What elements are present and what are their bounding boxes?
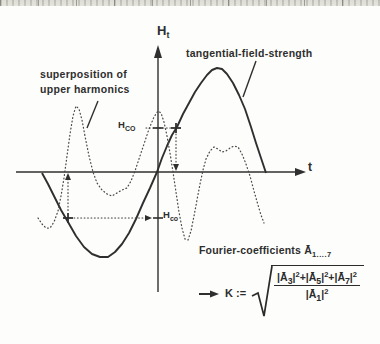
fraction: |Ā3|2+|Ā5|2+|Ā7|2 |Ā1|2 bbox=[274, 270, 360, 300]
coefficient-term-a1: |Ā1|2 bbox=[306, 288, 329, 300]
k-formula: K := |Ā3|2+|Ā5|2+|Ā7|2 |Ā1|2 bbox=[199, 263, 364, 319]
tangential-pointer-line bbox=[243, 61, 256, 97]
fourier-coefficients-label: Fourier-coefficients Ā1....7 bbox=[199, 244, 332, 256]
hco-lower-label-sub: co bbox=[170, 215, 178, 222]
fourier-symbol: Ā bbox=[304, 244, 312, 256]
dotted-curve bbox=[38, 106, 264, 240]
square-root: |Ā3|2+|Ā5|2+|Ā7|2 |Ā1|2 bbox=[251, 263, 364, 319]
coefficient-term-a5: |Ā5|2 bbox=[306, 271, 329, 283]
t-axis-arrowhead-icon bbox=[295, 168, 306, 176]
fraction-numerator: |Ā3|2+|Ā5|2+|Ā7|2 bbox=[274, 270, 360, 286]
y-axis-label-sub: t bbox=[166, 30, 169, 40]
hco-lower-guide-arrowhead-icon bbox=[65, 173, 71, 180]
h-axis-arrowhead-icon bbox=[154, 45, 162, 58]
dotted-curve-label-line1: superposition of bbox=[40, 68, 127, 80]
radicand: |Ā3|2+|Ā5|2+|Ā7|2 |Ā1|2 bbox=[271, 265, 364, 300]
y-axis-label: Ht bbox=[157, 23, 169, 38]
coefficient-term-a3: |Ā3|2 bbox=[277, 271, 300, 283]
hco-upper-label-sub: CO bbox=[125, 125, 136, 132]
t-axis-label: t bbox=[308, 160, 312, 174]
right-arrow-icon bbox=[199, 290, 219, 298]
term-open: |Ā bbox=[277, 271, 288, 283]
dotted-curve-label-line2: upper harmonics bbox=[40, 83, 130, 95]
hco-upper-label: HCO bbox=[118, 119, 135, 130]
hco-lower-guide-arrowhead-icon bbox=[145, 215, 152, 221]
hco-upper-guide-arrowhead-icon bbox=[173, 164, 179, 171]
fourier-subscript: 1....7 bbox=[312, 250, 332, 259]
term-open: |Ā bbox=[306, 288, 317, 300]
fraction-denominator: |Ā1|2 bbox=[306, 286, 329, 300]
figure: Ht tangential-field-strength superpositi… bbox=[0, 0, 380, 344]
term-open: |Ā bbox=[334, 271, 345, 283]
superposition-pointer-line bbox=[87, 101, 98, 128]
term-open: |Ā bbox=[306, 271, 317, 283]
k-definition: K := bbox=[225, 287, 246, 299]
solid-curve-label: tangential-field-strength bbox=[186, 47, 312, 59]
term-sup: 2 bbox=[324, 287, 328, 296]
fourier-prefix: Fourier-coefficients bbox=[199, 244, 301, 256]
y-axis-label-main: H bbox=[157, 23, 166, 38]
hco-lower-label: Hco bbox=[163, 209, 178, 220]
coefficient-term-a7: |Ā7|2 bbox=[334, 271, 357, 283]
term-sup: 2 bbox=[353, 270, 357, 279]
radical-sign-icon bbox=[251, 263, 273, 319]
hco-upper-label-main: H bbox=[118, 119, 125, 130]
solid-curve bbox=[42, 68, 266, 257]
hco-lower-label-main: H bbox=[163, 209, 170, 220]
